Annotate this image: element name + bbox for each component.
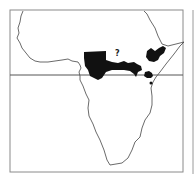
uncertain-record-marker: ? <box>115 49 120 58</box>
range-east-africa-spot <box>150 82 153 85</box>
range-ethiopian-highlands <box>146 46 166 62</box>
range-central-africa <box>84 51 142 80</box>
range-lake-victoria <box>144 71 153 78</box>
africa-distribution-map <box>0 0 196 176</box>
africa-coastline <box>17 11 184 165</box>
